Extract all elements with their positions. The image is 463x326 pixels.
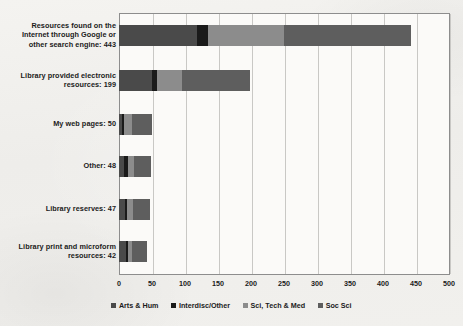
legend-swatch-icon [111,303,116,308]
bar-row [119,156,151,177]
x-tick-label: 0 [104,279,134,288]
gridline-150 [219,14,220,274]
bar-segment-arts-hum [119,241,126,262]
bar-row [119,70,250,91]
category-label: Other: 48 [4,161,116,170]
bar-segment-soc-sci [132,241,147,262]
legend-item[interactable]: Interdisc/Other [171,301,230,310]
bar-row [119,114,152,135]
bar-segment-soc-sci [133,199,150,220]
legend-swatch-icon [318,303,323,308]
gridline-250 [285,14,286,274]
x-tick-label: 500 [434,279,463,288]
bar-segment-sci-tech-med [124,114,133,135]
legend-label: Interdisc/Other [179,301,230,310]
bar-row [119,25,411,46]
legend-swatch-icon [243,303,248,308]
plot-area [119,13,450,275]
bar-segment-arts-hum [119,25,197,46]
bar-segment-soc-sci [284,25,411,46]
bar-row [119,199,150,220]
gridline-500 [450,14,451,274]
bar-segment-interdisc-other [197,25,208,46]
gridline-100 [186,14,187,274]
x-tick-label: 350 [335,279,365,288]
bar-segment-soc-sci [132,114,152,135]
bar-segment-sci-tech-med [208,25,284,46]
legend-label: Arts & Hum [119,301,159,310]
x-tick-label: 150 [203,279,233,288]
bar-segment-sci-tech-med [157,70,182,91]
category-label: Library reserves: 47 [4,204,116,213]
legend-item[interactable]: Arts & Hum [111,301,158,310]
x-tick-label: 300 [302,279,332,288]
x-tick-label: 200 [236,279,266,288]
bar-segment-arts-hum [119,70,152,91]
legend-item[interactable]: Soc Sci [318,301,351,310]
category-label: Library print and microform resources: 4… [4,242,116,261]
bar-segment-soc-sci [182,70,251,91]
x-tick-label: 250 [269,279,299,288]
gridline-450 [417,14,418,274]
category-label: Library provided electronic resources: 1… [4,71,116,90]
gridline-400 [384,14,385,274]
stacked-bar-chart: Resources found on the Internet through … [0,0,463,326]
gridline-50 [153,14,154,274]
legend-item[interactable]: Sci, Tech & Med [243,301,305,310]
gridline-350 [351,14,352,274]
bar-segment-soc-sci [134,156,151,177]
category-label: Resources found on the Internet through … [4,21,116,49]
x-tick-label: 100 [170,279,200,288]
category-label: My web pages: 50 [4,119,116,128]
gridline-300 [318,14,319,274]
legend-label: Sci, Tech & Med [251,301,306,310]
bar-row [119,241,147,262]
x-tick-label: 50 [137,279,167,288]
legend-label: Soc Sci [326,301,352,310]
x-tick-label: 400 [368,279,398,288]
legend-swatch-icon [171,303,176,308]
chart-legend: Arts & HumInterdisc/OtherSci, Tech & Med… [0,301,463,310]
x-tick-label: 450 [401,279,431,288]
gridline-200 [252,14,253,274]
